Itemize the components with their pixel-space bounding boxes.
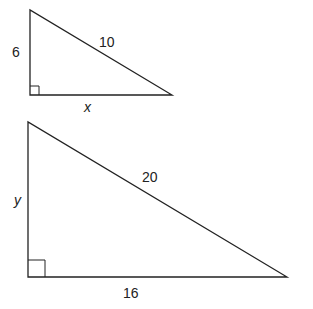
- small-triangle-outline: [30, 10, 172, 95]
- large-triangle-outline: [28, 122, 287, 277]
- small-horizontal-leg-label: x: [83, 99, 92, 115]
- large-hypotenuse-label: 20: [142, 169, 158, 185]
- large-vertical-leg-label: y: [13, 192, 22, 208]
- small-right-angle-marker: [30, 86, 39, 95]
- small-hypotenuse-label: 10: [99, 34, 115, 50]
- small-triangle: 6 10 x: [12, 10, 172, 115]
- large-triangle: y 20 16: [13, 122, 287, 301]
- small-vertical-leg-label: 6: [12, 44, 20, 60]
- large-right-angle-marker: [28, 260, 45, 277]
- large-horizontal-leg-label: 16: [123, 285, 139, 301]
- similar-triangles-diagram: 6 10 x y 20 16: [0, 0, 313, 309]
